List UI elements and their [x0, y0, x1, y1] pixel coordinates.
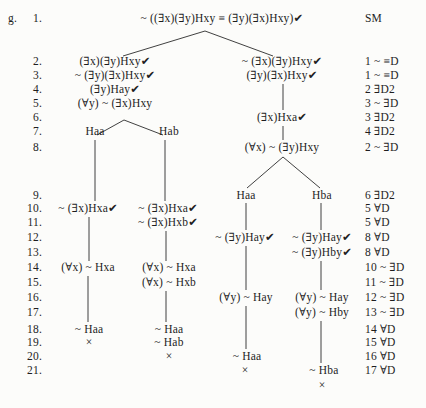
formula-node: ~ (∃y)Hby✔ — [292, 247, 352, 259]
formula-node: ~ (∃x)Hxa✔ — [58, 203, 118, 215]
formula-node: (∀x) ~ Hxa — [142, 262, 195, 274]
justification: 1 ~ ≡D — [365, 70, 399, 82]
line-number: 13. — [12, 247, 42, 259]
justification: 5 ∀D — [365, 203, 390, 215]
line-number: 10. — [12, 203, 42, 215]
justification: SM — [365, 13, 382, 25]
formula-node: ~ Hab — [154, 337, 183, 349]
justification: 15 ∀D — [365, 337, 396, 349]
justification: 6 ∃D2 — [365, 190, 395, 202]
branch-line — [283, 157, 320, 188]
formula-node: (∃x)Hxa✔ — [257, 112, 307, 124]
line-number: 2. — [12, 56, 42, 68]
formula-node: ~ Hba — [309, 365, 338, 377]
formula-node: ~ (∃y)(∃x)Hxy✔ — [75, 70, 156, 82]
formula-node: Haa — [236, 190, 255, 202]
justification: 8 ∀D — [365, 247, 390, 259]
formula-node: (∀x) ~ Hxb — [142, 277, 196, 289]
line-number: 14. — [12, 262, 42, 274]
formula-node: (∃y)Hay✔ — [90, 84, 140, 96]
formula-node: (∀y) ~ Hay — [295, 292, 348, 304]
formula-node: Haa — [85, 126, 104, 138]
branch-line — [124, 120, 163, 135]
justification: 2 ~ ∃D — [365, 142, 398, 154]
line-number: 11. — [12, 217, 42, 229]
branch-line — [247, 157, 283, 188]
justification: 8 ∀D — [365, 232, 390, 244]
line-number: 15. — [12, 277, 42, 289]
line-number: 16. — [12, 292, 42, 304]
formula-node: ~ (∃x)Hxb✔ — [138, 217, 198, 229]
justification: 3 ~ ∃D — [365, 98, 398, 110]
branch-line — [123, 31, 205, 56]
justification: 17 ∀D — [365, 365, 396, 377]
closed-branch-mark: × — [319, 380, 326, 392]
justification: 4 ∃D2 — [365, 126, 395, 138]
formula-node: ~ Haa — [155, 324, 184, 336]
line-number: 9. — [12, 190, 42, 202]
formula-node: (∀y) ~ Hby — [295, 307, 349, 319]
formula-node: (∃x)(∃y)Hxy✔ — [79, 56, 150, 68]
line-number: 1. — [12, 13, 42, 25]
branch-line — [205, 31, 273, 56]
line-number: 20. — [12, 351, 42, 363]
line-number: 19. — [12, 337, 42, 349]
line-number: 6. — [12, 112, 42, 124]
justification: 12 ~ ∃D — [365, 292, 404, 304]
line-number: 18. — [12, 324, 42, 336]
formula-node: ~ Haa — [233, 351, 262, 363]
formula-node: ~ (∃x)Hxa✔ — [138, 203, 198, 215]
formula-node: ~ (∃y)Hay✔ — [215, 232, 275, 244]
formula-node: ~ (∃x)(∃y)Hxy✔ — [242, 56, 323, 68]
formula-node: ~ ((∃x)(∃y)Hxy ≡ (∃y)(∃x)Hxy)✔ — [141, 13, 304, 25]
justification: 1 ~ ≡D — [365, 56, 399, 68]
justification: 14 ∀D — [365, 324, 396, 336]
justification: 3 ∃D2 — [365, 112, 395, 124]
justification: 16 ∀D — [365, 351, 396, 363]
justification: 2 ∃D2 — [365, 84, 395, 96]
formula-node: (∀y) ~ Hay — [219, 292, 272, 304]
formula-node: (∀x) ~ Hxa — [61, 262, 114, 274]
line-number: 7. — [12, 126, 42, 138]
closed-branch-mark: × — [242, 365, 249, 377]
formula-node: Hba — [312, 190, 332, 202]
formula-node: Hab — [159, 126, 179, 138]
line-number: 4. — [12, 84, 42, 96]
formula-node: ~ Haa — [75, 324, 104, 336]
justification: 11 ~ ∃D — [365, 277, 404, 289]
line-number: 8. — [12, 142, 42, 154]
justification: 13 ~ ∃D — [365, 307, 404, 319]
formula-node: ~ (∃y)Hay✔ — [292, 232, 352, 244]
closed-branch-mark: × — [166, 351, 173, 363]
formula-node: (∀x) ~ (∃y)Hxy — [245, 142, 320, 154]
formula-node: (∀y) ~ (∃x)Hxy — [78, 98, 153, 110]
line-number: 3. — [12, 70, 42, 82]
proof-tree-page: g. 1. 2. 3. 4. 5. 6. 7. 8. 9. 10. 11. 12… — [0, 0, 426, 408]
formula-node: (∃y)(∃x)Hxy✔ — [246, 70, 317, 82]
line-number: 21. — [12, 365, 42, 377]
justification: 5 ∀D — [365, 217, 390, 229]
line-number: 17. — [12, 307, 42, 319]
line-number: 12. — [12, 232, 42, 244]
line-number: 5. — [12, 98, 42, 110]
closed-branch-mark: × — [86, 337, 93, 349]
justification: 10 ~ ∃D — [365, 262, 404, 274]
